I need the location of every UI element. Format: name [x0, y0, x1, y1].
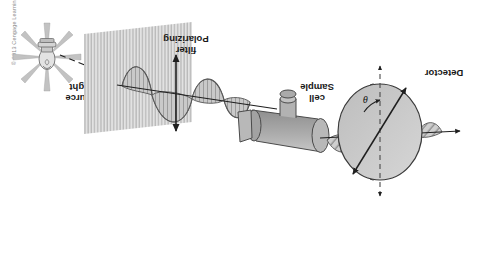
polarizing-filter-label-line2: filter: [175, 45, 196, 56]
angle-symbol-label: θ: [363, 94, 368, 105]
detector-label: Detector: [424, 68, 463, 79]
sample-cell-stem-base: [280, 90, 296, 98]
sample-cell-left-cap: [312, 119, 329, 153]
sample-cell: Sample cell: [238, 82, 334, 153]
light-bulb-icon: [38, 39, 56, 70]
sample-cell-label-line2: cell: [309, 93, 325, 104]
diagram-rotated-group: Light source Polarizing filter: [0, 0, 492, 262]
sample-cell-flange: [238, 110, 252, 142]
polarimeter-diagram: Light source Polarizing filter: [0, 0, 492, 262]
wave-lobe-2: [192, 79, 224, 103]
figure-canvas: © 2013 Cengage Learning: [0, 0, 492, 262]
polarizing-filter-label-line1: Polarizing: [163, 34, 209, 45]
detector: Detector: [338, 68, 463, 180]
sample-cell-label-line1: Sample: [300, 82, 334, 93]
